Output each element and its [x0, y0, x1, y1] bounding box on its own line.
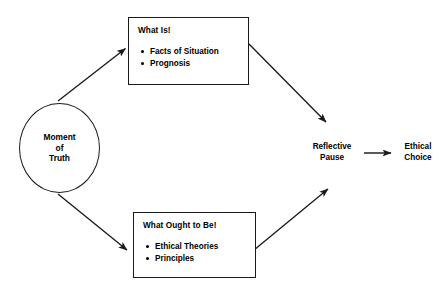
moment-of-truth-line-2: of: [56, 143, 64, 154]
node-what-ought-to-be: What Ought to Be! Ethical Theories Princ…: [133, 212, 256, 278]
what-ought-bullet-1: Ethical Theories: [155, 242, 218, 251]
moment-of-truth-line-1: Moment: [43, 132, 75, 143]
list-item: Ethical Theories: [146, 241, 218, 253]
node-ethical-choice: Ethical Choice: [394, 142, 442, 163]
what-is-bullet-1: Facts of Situation: [150, 47, 219, 56]
what-is-title: What Is!: [138, 26, 171, 35]
what-ought-bullet-list: Ethical Theories Principles: [146, 241, 218, 264]
bullet-dot-icon: [141, 62, 144, 65]
node-what-is: What Is! Facts of Situation Prognosis: [128, 17, 249, 85]
bullet-dot-icon: [146, 257, 149, 260]
reflective-pause-line-1: Reflective: [303, 142, 361, 153]
connector-moment-to-what-ought: [58, 194, 127, 250]
bullet-dot-icon: [146, 245, 149, 248]
what-ought-title: What Ought to Be!: [143, 221, 217, 230]
ethical-choice-line-2: Choice: [394, 153, 442, 164]
moment-of-truth-line-3: Truth: [49, 153, 70, 164]
list-item: Facts of Situation: [141, 46, 219, 58]
bullet-dot-icon: [141, 50, 144, 53]
what-ought-bullet-2: Principles: [155, 254, 194, 263]
node-reflective-pause: Reflective Pause: [303, 142, 361, 163]
connector-what-is-to-pause: [249, 44, 326, 122]
what-is-bullet-2: Prognosis: [150, 59, 190, 68]
connector-moment-to-what-is: [58, 49, 126, 102]
list-item: Principles: [146, 253, 218, 265]
reflective-pause-line-2: Pause: [303, 153, 361, 164]
ethical-choice-line-1: Ethical: [394, 142, 442, 153]
what-is-bullet-list: Facts of Situation Prognosis: [141, 46, 219, 69]
node-moment-of-truth: Moment of Truth: [19, 103, 100, 193]
list-item: Prognosis: [141, 58, 219, 70]
connector-what-ought-to-pause: [254, 189, 328, 250]
diagram-canvas: Moment of Truth What Is! Facts of Situat…: [0, 0, 445, 296]
